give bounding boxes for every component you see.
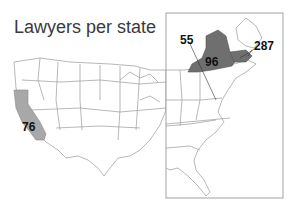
us-map: 76 96 55 287 <box>0 0 291 214</box>
dc-label: 55 <box>180 33 194 47</box>
massachusetts-label: 287 <box>254 39 274 53</box>
california-label: 76 <box>22 120 36 134</box>
new-york-label: 96 <box>205 55 219 69</box>
